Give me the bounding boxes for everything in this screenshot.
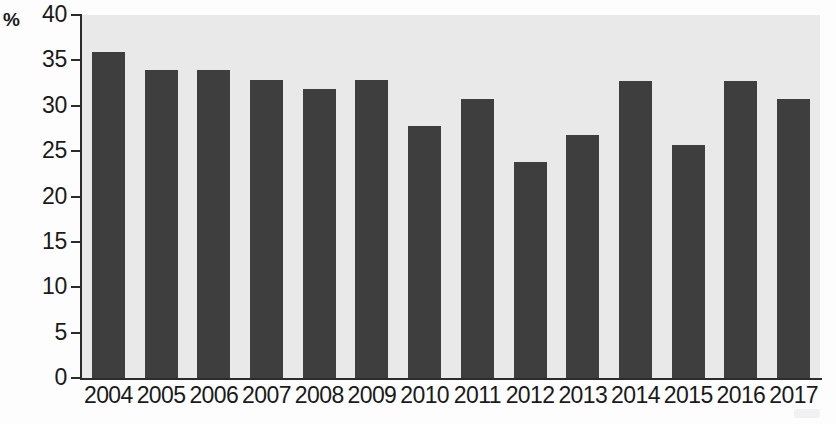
x-axis-tick-label: 2013 xyxy=(557,382,609,409)
y-axis-tick-label: 10 xyxy=(42,273,67,299)
x-axis-tick-label: 2008 xyxy=(293,382,345,409)
x-axis-tick-label: 2009 xyxy=(346,382,398,409)
y-axis-tick-mark xyxy=(71,14,82,16)
scan-artifact xyxy=(794,409,820,418)
bar-2013 xyxy=(566,135,599,378)
x-axis-tick-label: 2007 xyxy=(241,382,293,409)
bar-2007 xyxy=(250,80,283,378)
x-axis-tick-label: 2014 xyxy=(610,382,662,409)
y-axis-tick-mark xyxy=(71,105,82,107)
x-axis-tick-label: 2010 xyxy=(399,382,451,409)
x-axis-tick-label: 2017 xyxy=(768,382,820,409)
bar-2017 xyxy=(777,99,810,378)
x-axis-tick-label: 2012 xyxy=(504,382,556,409)
y-axis-tick-mark xyxy=(71,241,82,243)
x-axis-tick-label: 2016 xyxy=(715,382,767,409)
bar-2005 xyxy=(145,70,178,378)
x-axis-tick-label: 2011 xyxy=(451,382,503,409)
x-axis-tick-label: 2015 xyxy=(662,382,714,409)
x-axis-tick-label: 2004 xyxy=(82,382,134,409)
bar-2016 xyxy=(724,81,757,378)
y-axis-tick-mark xyxy=(71,59,82,61)
bar-2011 xyxy=(461,99,494,379)
plot-area xyxy=(82,15,820,378)
y-axis-tick-label: 0 xyxy=(55,364,68,390)
bar-2004 xyxy=(92,52,125,378)
bar-2012 xyxy=(514,162,547,378)
x-axis-line xyxy=(80,378,822,380)
x-axis-tick-label: 2006 xyxy=(188,382,240,409)
y-axis-tick-label: 30 xyxy=(42,92,67,118)
y-axis-tick-group: 4035302520151050 xyxy=(0,0,82,424)
x-axis-tick-label: 2005 xyxy=(135,382,187,409)
y-axis-tick-label: 5 xyxy=(55,319,68,345)
bar-2015 xyxy=(672,145,705,378)
y-axis-tick-label: 20 xyxy=(42,183,67,209)
bar-2014 xyxy=(619,81,652,378)
y-axis-tick-mark xyxy=(71,196,82,198)
bar-chart-figure: % 4035302520151050 200420052006200720082… xyxy=(0,0,836,424)
bar-2010 xyxy=(408,126,441,378)
bar-2008 xyxy=(303,89,336,378)
y-axis-tick-mark xyxy=(71,150,82,152)
y-axis-tick-label: 35 xyxy=(42,46,67,72)
y-axis-tick-mark xyxy=(71,332,82,334)
y-axis-tick-label: 25 xyxy=(42,137,67,163)
bar-2006 xyxy=(197,70,230,378)
y-axis-tick-label: 40 xyxy=(42,1,67,27)
y-axis-tick-label: 15 xyxy=(42,228,67,254)
x-axis-tick-group: 2004200520062007200820092010201120122013… xyxy=(82,382,820,416)
y-axis-tick-mark xyxy=(71,286,82,288)
bar-2009 xyxy=(355,80,388,378)
